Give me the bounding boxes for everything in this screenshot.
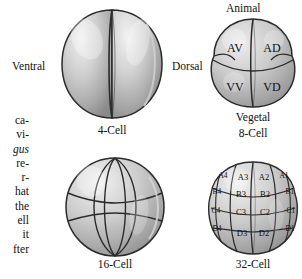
label-ventral: Ventral: [12, 60, 45, 72]
cell-label-B3: B3: [236, 189, 246, 199]
label-vegetal: Vegetal: [208, 111, 298, 123]
cell-label-D2: D2: [259, 228, 269, 238]
cell-label-C1: C1: [287, 206, 296, 215]
sixteen-cell-embryo: [57, 155, 173, 259]
cell-label-A1: A1: [279, 171, 288, 180]
caption-line: hat: [0, 184, 30, 198]
cell-label-D1: D1: [285, 224, 294, 233]
caption-line: ca-: [0, 113, 30, 127]
cell-label-C3: C3: [236, 207, 246, 217]
cell-label-B4: B4: [213, 187, 222, 196]
caption-four-cell: 4-Cell: [54, 124, 170, 136]
caption-line: the: [0, 199, 30, 213]
thirtytwo-cell-embryo: A4 A3 A2 A1 B4 B3 B2 B1 C4 C3 C2 C1 D4 D…: [206, 160, 300, 256]
quadrant-label-VD: VD: [263, 80, 281, 94]
cell-label-C4: C4: [212, 206, 221, 215]
quadrant-label-AV: AV: [227, 41, 243, 55]
caption-text-column: ca- vi- gus re- r- hat the ell it fter: [0, 113, 30, 256]
caption-line: r-: [0, 170, 30, 184]
caption-line: ell: [0, 213, 30, 227]
caption-sixteen-cell: 16-Cell: [57, 258, 173, 270]
quadrant-label-AD: AD: [263, 41, 281, 55]
cell-label-B1: B1: [286, 187, 295, 196]
quadrant-label-VV: VV: [226, 80, 244, 94]
eight-cell-body: [211, 19, 295, 107]
caption-line: re-: [0, 156, 30, 170]
caption-line: it: [0, 227, 30, 241]
eight-cell-embryo: AV AD VV VD: [208, 16, 298, 110]
cell-label-B2: B2: [260, 189, 270, 199]
cleavage-stages-figure: ca- vi- gus re- r- hat the ell it fter: [0, 0, 302, 279]
caption-line: vi-: [0, 127, 30, 141]
cell-label-C2: C2: [260, 207, 270, 217]
cell-label-D4: D4: [212, 224, 221, 233]
cell-label-A4: A4: [218, 171, 227, 180]
caption-line: fter: [0, 242, 30, 256]
caption-eight-cell: 8-Cell: [208, 127, 298, 139]
cell-label-A3: A3: [238, 172, 248, 182]
cell-label-D3: D3: [237, 228, 247, 238]
label-dorsal: Dorsal: [172, 60, 203, 72]
four-cell-embryo: [54, 6, 170, 122]
caption-line: gus: [0, 142, 30, 156]
cell-label-A2: A2: [259, 172, 269, 182]
caption-thirtytwo-cell: 32-Cell: [206, 258, 300, 270]
label-animal: Animal: [226, 2, 261, 14]
